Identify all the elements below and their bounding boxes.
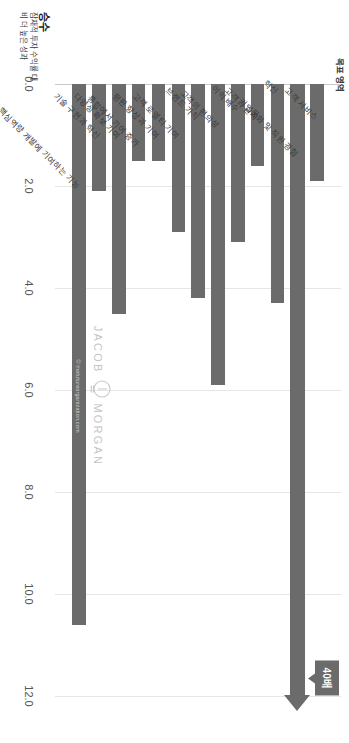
value-tick-label: 0.0 — [23, 76, 35, 91]
bar-chart-figure: 목표 영역 승수 잠재적 투자 수익률 대비 더 높은 성과 고객 서비스기업문… — [0, 0, 349, 743]
bar-row[interactable] — [168, 84, 188, 696]
value-tick-label: 12.0 — [23, 685, 35, 706]
watermark-left-text: JACOB — [92, 326, 104, 374]
watermark: JACOB MORGAN © thefutureorganization.com — [75, 332, 113, 460]
bar-row[interactable] — [228, 84, 248, 696]
annotation-callout: 40배 — [315, 660, 339, 695]
watermark-right-text: MORGAN — [92, 404, 104, 467]
bar-row[interactable] — [307, 84, 327, 696]
bar-row[interactable] — [287, 84, 307, 696]
value-tick-label: 8.0 — [23, 484, 35, 499]
bar-row[interactable] — [267, 84, 287, 696]
bar-row[interactable] — [188, 84, 208, 696]
category-axis-title: 목표 영역 — [335, 58, 347, 92]
value-tick-label: 4.0 — [23, 280, 35, 295]
watermark-url: © thefutureorganization.com — [75, 332, 81, 460]
bar[interactable] — [311, 84, 325, 181]
value-axis-title: 승수 — [37, 12, 53, 32]
rotated-figure-wrapper: 목표 영역 승수 잠재적 투자 수익률 대비 더 높은 성과 고객 서비스기업문… — [0, 0, 349, 743]
bar-row[interactable] — [129, 84, 149, 696]
bar[interactable] — [271, 84, 285, 303]
bar[interactable] — [290, 84, 305, 696]
value-tick-label: 10.0 — [23, 583, 35, 604]
bar-row[interactable] — [148, 84, 168, 696]
bar-row[interactable] — [248, 84, 268, 696]
value-tick-label: 6.0 — [23, 382, 35, 397]
value-axis-subtitle: 잠재적 투자 수익률 대비 더 높은 성과 — [19, 12, 38, 84]
value-tick-label: 2.0 — [23, 178, 35, 193]
bar-row[interactable] — [208, 84, 228, 696]
lightbulb-icon — [83, 379, 113, 399]
